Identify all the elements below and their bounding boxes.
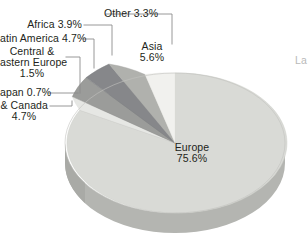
label-europe-line2: 75.6% [165,153,219,165]
label-central-eastern-europe-line3: 1.5% [0,68,64,80]
label-africa: Africa 3.9% [0,19,82,31]
pie-chart-figure: Other 3.3% Africa 3.9% atin America 4.7%… [0,0,308,245]
pie-slices [67,64,287,213]
leader-line-us-canada [50,101,72,106]
label-other: Other 3.3% [104,8,158,20]
label-latin-america: atin America 4.7% [0,33,80,45]
label-clipped-right: La [295,55,307,67]
leader-line-africa [84,25,112,55]
label-us-canada-line2: 4.7% [0,111,48,123]
label-asia-line2: 5.6% [130,52,174,64]
label-japan: apan 0.7% [0,87,51,99]
